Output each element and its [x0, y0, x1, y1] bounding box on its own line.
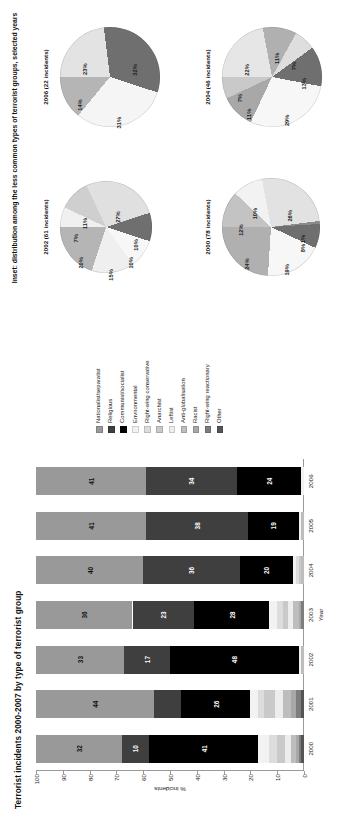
legend-swatch-icon: [205, 427, 212, 434]
bar-segment-value: 40: [86, 567, 93, 574]
legend-item-nationalist-separatist[interactable]: Nationalist/separatist: [96, 315, 103, 433]
legend-swatch-icon: [132, 427, 139, 434]
page-frame: Terrorist incidents 2000-2007 by type of…: [0, 0, 363, 837]
y-axis-tick: [170, 771, 171, 774]
bar-chart-title: Terrorist incidents 2000-2007 by type of…: [14, 591, 23, 809]
bar-segment: [301, 512, 304, 540]
x-axis-tick-label-2001: 2001: [307, 697, 314, 711]
bar-segment-value: 41: [87, 522, 94, 529]
legend-item-right-wing-reactionary[interactable]: Right-wing reactionary: [205, 315, 212, 433]
bar-segment: [291, 690, 296, 718]
bar-segment: [283, 601, 288, 629]
legend-item-religious[interactable]: Religious: [108, 315, 115, 433]
legend-swatch-icon: [108, 427, 115, 434]
bar-segment-value: 23: [160, 611, 167, 618]
pie-slice-label: 19%: [284, 264, 290, 275]
bar-segment: [299, 556, 302, 584]
bar-segment: [291, 735, 296, 763]
bar-segment-value: 33: [77, 656, 84, 663]
bar-segment: 40: [36, 556, 143, 584]
y-axis-tick: [63, 771, 64, 774]
bar-segment: [296, 735, 299, 763]
pie-slice-label: 10%: [133, 239, 139, 250]
bar-segment: [296, 556, 299, 584]
legend-item-other[interactable]: Other: [217, 315, 224, 433]
bar-segment: 36: [143, 556, 239, 584]
bar-chart: Terrorist incidents 2000-2007 by type of…: [8, 447, 356, 815]
bar-segment: [301, 601, 304, 629]
legend-item-communist-socialist[interactable]: Communist/socialist: [120, 315, 127, 433]
bar-segment: [301, 646, 304, 674]
pie-slice-label: 7%: [291, 62, 297, 70]
pie-slice-label: 27%: [115, 211, 121, 222]
bar-segment-value: 36: [188, 567, 195, 574]
legend: Nationalist/separatistReligiousCommunist…: [96, 315, 229, 433]
bar-segment: 32: [36, 735, 122, 763]
bar-segment-value: 28: [228, 611, 235, 618]
bar-segment: [277, 601, 282, 629]
bar-segment: [301, 467, 304, 495]
legend-item-right-wing-conservative[interactable]: Right-wing conservative: [144, 315, 151, 433]
bar-segment: 44: [36, 690, 154, 718]
x-axis-tick-label-2003: 2003: [307, 608, 314, 622]
bar-segment: [250, 690, 258, 718]
pie-slice-label: 7%: [73, 234, 79, 242]
y-axis-tick: [277, 771, 278, 774]
legend-item-leftist[interactable]: Leftist: [169, 315, 176, 433]
pie-slice-label: 10%: [252, 208, 258, 219]
pie-slice-label: 14%: [77, 99, 83, 110]
pie-slice-label: 23%: [82, 63, 88, 74]
y-axis-tick: [197, 771, 198, 774]
bar-segment: 38: [146, 512, 248, 540]
inset-pies: Inset: distribution among the less commo…: [6, 5, 358, 291]
legend-item-label: Right-wing conservative: [145, 360, 151, 423]
legend-item-label: Religious: [108, 399, 114, 423]
pie-slice-label: 31%: [116, 117, 122, 128]
legend-item-label: Environmental: [133, 385, 139, 423]
bar-segment: 28: [194, 601, 269, 629]
pie-slice-label: 24%: [244, 258, 250, 269]
legend-item-racist[interactable]: Racist: [193, 315, 200, 433]
bar-segment: 24: [237, 467, 301, 495]
y-axis-tick: [116, 771, 117, 774]
pie-chart-2000: 2000 (78 incidents)12%10%26%1%8%19%24%: [204, 163, 336, 291]
legend-swatch-icon: [144, 427, 151, 434]
pie-slice-label: 29%: [284, 115, 290, 126]
bar-segment: [288, 601, 293, 629]
bar-segment: [269, 735, 277, 763]
pie-caption: 2006 (22 incidents): [42, 13, 49, 141]
pie-chart-2004: 2004 (46 incidents)22%11%7%13%29%11%7%: [204, 13, 336, 141]
pie-graphic: [60, 27, 160, 127]
inset-title: Inset: distribution among the less commo…: [10, 5, 19, 291]
bar-segment: 23: [133, 601, 195, 629]
pie-slice-label: 13%: [301, 78, 307, 89]
bar-segment-value: 44: [91, 701, 98, 708]
legend-item-label: Leftist: [169, 407, 175, 423]
bar-segment: [293, 601, 298, 629]
pie-graphic: [222, 178, 320, 276]
legend-item-environmental[interactable]: Environmental: [132, 315, 139, 433]
legend-item-anti-globalisation[interactable]: Anti-globalisation: [181, 315, 188, 433]
bar-segment-value: 24: [266, 478, 273, 485]
legend-item-anarchist[interactable]: Anarchist: [156, 315, 163, 433]
chart-page: Terrorist incidents 2000-2007 by type of…: [0, 0, 363, 837]
bar-segment: 41: [36, 512, 146, 540]
pie-slice-label: 10%: [128, 257, 134, 268]
bar-segment: [283, 690, 291, 718]
y-axis-tick: [250, 771, 251, 774]
bar-segment-value: 20: [263, 567, 270, 574]
bar-segment-value: 19: [270, 522, 277, 529]
bar-segment: 41: [36, 467, 146, 495]
legend-swatch-icon: [169, 427, 176, 434]
bar-segment-value: 34: [188, 478, 195, 485]
x-axis-tick-label-2005: 2005: [307, 519, 314, 533]
bar-segment: 17: [124, 646, 170, 674]
bar-segment-value: 48: [231, 656, 238, 663]
bar-segment-value: 26: [212, 701, 219, 708]
bar-segment: [301, 690, 304, 718]
bar-segment: 34: [146, 467, 237, 495]
y-axis-tick: [224, 771, 225, 774]
pie-slice-label: 8%: [300, 244, 306, 252]
bar-segment: [299, 646, 302, 674]
bar-segment-value: 36: [81, 611, 88, 618]
